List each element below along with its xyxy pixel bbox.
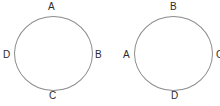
circle-right-label-top: B bbox=[170, 2, 177, 12]
circle-left-label-right: B bbox=[95, 50, 102, 60]
circle-left-label-top: A bbox=[48, 2, 55, 12]
circle-right-label-bottom: D bbox=[171, 91, 178, 101]
two-circle-diagram: A B C D B C D A bbox=[0, 0, 220, 106]
diagram-canvas: A B C D B C D A bbox=[0, 0, 220, 106]
circle-left-label-left: D bbox=[3, 50, 10, 60]
circle-right-outline bbox=[134, 16, 213, 91]
circle-right-label-right: C bbox=[216, 50, 220, 60]
circle-left-outline bbox=[14, 16, 93, 91]
circle-left-label-bottom: C bbox=[49, 91, 56, 101]
circle-right-label-left: A bbox=[123, 50, 130, 60]
